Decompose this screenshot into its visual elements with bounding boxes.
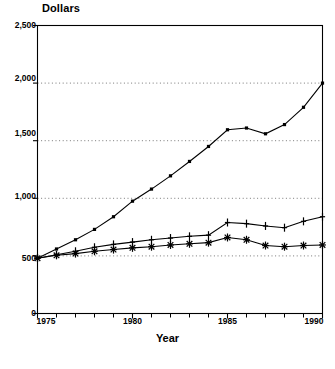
x-axis-title: Year bbox=[0, 332, 335, 344]
y-tick-label: 0 bbox=[3, 309, 36, 318]
data-series-layer bbox=[34, 82, 326, 263]
y-tick-label: 2,000 bbox=[3, 74, 36, 83]
y-tick-label: 2,500 bbox=[3, 21, 36, 30]
y-tick-label: 1,000 bbox=[3, 192, 36, 201]
y-tick-label: 500 bbox=[3, 254, 36, 263]
axes-frame bbox=[38, 26, 323, 314]
x-tick-label: 1980 bbox=[123, 317, 142, 326]
axis-ticks bbox=[33, 26, 323, 319]
chart-figure: Dollars 2,500 2,000 1,500 1,000 500 0 19… bbox=[0, 0, 335, 369]
plot-area bbox=[0, 0, 335, 369]
y-tick-label: 1,500 bbox=[3, 129, 36, 138]
y-axis-title: Dollars bbox=[42, 2, 80, 14]
x-tick-label: 1990 bbox=[305, 317, 324, 326]
x-tick-label: 1975 bbox=[37, 317, 56, 326]
gridlines bbox=[38, 83, 323, 256]
x-tick-label: 1985 bbox=[218, 317, 237, 326]
